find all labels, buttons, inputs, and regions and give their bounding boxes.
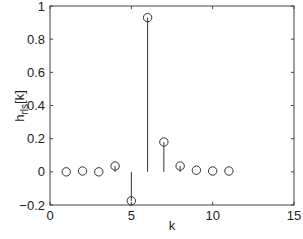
stem-chart: 051015−0.200.20.40.60.81 k hrls[k] (0, 0, 303, 239)
y-axis-label: hrls[k] (12, 90, 30, 122)
stem-marker (192, 166, 200, 174)
stem-marker (95, 168, 103, 176)
y-axis-label-index: [k] (12, 90, 27, 104)
x-tick-label: 15 (287, 208, 301, 223)
y-tick-label: 1 (38, 0, 45, 14)
x-axis-label: k (169, 218, 176, 233)
y-tick-label: −0.2 (19, 198, 45, 213)
stem-marker (78, 167, 86, 175)
y-tick-label: 0.8 (27, 32, 45, 47)
y-axis-label-main: h (12, 115, 27, 122)
plot-area: 051015−0.200.20.40.60.81 (19, 0, 301, 223)
stem-marker (62, 168, 70, 176)
x-tick-label: 0 (46, 208, 53, 223)
y-tick-label: 0 (38, 164, 45, 179)
axes-frame (50, 6, 294, 205)
y-tick-label: 0.6 (27, 65, 45, 80)
y-axis-label-subscript: rls (19, 104, 30, 115)
y-tick-label: 0.2 (27, 131, 45, 146)
x-tick-label: 10 (205, 208, 219, 223)
stem-marker (208, 167, 216, 175)
x-tick-label: 5 (128, 208, 135, 223)
stem-marker (225, 167, 233, 175)
